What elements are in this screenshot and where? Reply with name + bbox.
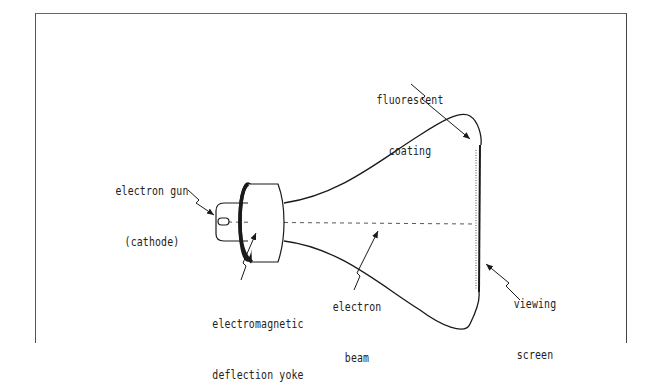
label-line: electron: [328, 299, 385, 316]
label-line: (cathode): [107, 234, 197, 251]
deflection-yoke: [240, 184, 284, 262]
label-line: fluorescent: [357, 92, 464, 109]
label-line: screen: [506, 347, 563, 364]
viewing-screen: [476, 145, 480, 292]
label-line: electromagnetic: [207, 316, 309, 333]
label-viewing-screen: viewing screen: [506, 262, 563, 381]
label-line: deflection yoke: [207, 367, 309, 384]
label-deflection-yoke: electromagnetic deflection yoke: [207, 282, 309, 386]
label-fluorescent-coating: fluorescent coating: [357, 58, 464, 177]
label-line: coating: [357, 143, 464, 160]
label-line: electron gun: [107, 183, 197, 200]
label-line: viewing: [506, 296, 563, 313]
label-electron-gun: electron gun (cathode): [107, 149, 197, 268]
label-electron-beam: electron beam: [328, 265, 385, 384]
label-line: beam: [328, 350, 385, 367]
